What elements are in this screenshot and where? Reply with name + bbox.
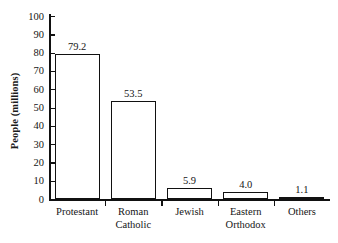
bar[interactable]: 53.5 [111, 101, 156, 199]
x-category-label: Roman Catholic [105, 206, 161, 231]
y-tick-label: 80 [34, 45, 45, 60]
bar-value-label: 79.2 [68, 41, 86, 53]
x-category-label: Eastern Orthodox [218, 206, 274, 231]
x-tick-separator [161, 199, 162, 206]
bar-group: 4.0 [223, 16, 268, 199]
y-tick-label: 70 [34, 63, 45, 78]
x-axis-line [49, 199, 330, 201]
x-tick-separator [218, 199, 219, 206]
bar-value-label: 5.9 [183, 175, 196, 187]
y-tick-label: 90 [34, 27, 45, 42]
bar[interactable]: 79.2 [55, 54, 100, 199]
x-tick-separator [105, 199, 106, 206]
y-tick-label: 20 [34, 155, 45, 170]
y-tick-label: 40 [34, 118, 45, 133]
bar-value-label: 53.5 [124, 88, 142, 100]
y-tick-label: 0 [39, 192, 44, 207]
bar-group: 1.1 [279, 16, 324, 199]
y-tick-label: 50 [34, 100, 45, 115]
y-tick-label: 30 [34, 137, 45, 152]
x-tick-separator [274, 199, 275, 206]
bar-value-label: 4.0 [239, 179, 252, 191]
y-tick-label: 60 [34, 82, 45, 97]
y-tick-label: 100 [28, 9, 44, 24]
bar-group: 79.2 [55, 16, 100, 199]
y-axis-label: People (millions) [8, 20, 22, 203]
bar-group: 53.5 [111, 16, 156, 199]
bar-value-label: 1.1 [295, 184, 308, 196]
y-axis-line [49, 14, 51, 199]
x-category-label: Protestant [49, 206, 105, 219]
bar[interactable]: 4.0 [223, 192, 268, 199]
x-category-label: Others [274, 206, 330, 219]
plot-area: 0102030405060708090100 79.253.55.94.01.1… [49, 16, 330, 199]
x-category-label: Jewish [161, 206, 217, 219]
y-tick-label: 10 [34, 173, 45, 188]
y-tick-mark [49, 199, 55, 200]
bar[interactable]: 5.9 [167, 188, 212, 199]
bar[interactable]: 1.1 [279, 197, 324, 199]
bar-group: 5.9 [167, 16, 212, 199]
bar-chart: People (millions) 0102030405060708090100… [0, 0, 338, 243]
